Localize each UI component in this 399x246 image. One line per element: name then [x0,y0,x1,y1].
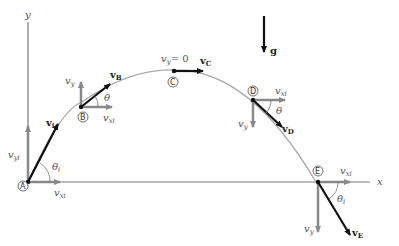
vx-E-label: vxi [340,165,352,178]
point-B-label: B [80,113,86,122]
vxi-A-label: vxi [54,187,66,200]
point-C-label: C [170,78,176,87]
gravity-label: g [270,45,277,56]
theta-B-arc [95,96,98,107]
vx-B-label: vxi [103,112,115,125]
theta-i-E-label: θi [337,193,345,206]
v-B-label: vB [109,69,122,82]
vi-A-arrow [28,124,58,182]
v-E-arrow [318,182,350,235]
y-axis-label: y [24,9,31,20]
theta-i-arc [40,163,50,182]
point-A-label: A [20,182,26,191]
v-C-label: vC [199,55,212,68]
vy-D-label: vy [238,118,249,131]
vyi-A-label: vyi [8,149,20,162]
theta-D-label: θ [276,105,282,116]
vx-D-label: vxi [275,85,287,98]
vy-B-label: vy [65,75,76,88]
point-D-label: D [250,87,256,96]
vi-A-label: vi [45,117,55,130]
theta-D-arc [266,100,271,113]
v-E-label: vE [351,227,363,240]
point-E-label: E [315,167,320,176]
x-axis-label: x [377,176,383,187]
vy-zero-C-label: vy= 0 [161,53,189,66]
projectile-diagram: y x g A vxi vyi vi θi B vxi vy vB θ C vy… [0,0,399,246]
theta-B-label: θ [104,92,110,103]
theta-i-A-label: θi [52,161,60,174]
vy-E-label: vy [304,223,315,236]
